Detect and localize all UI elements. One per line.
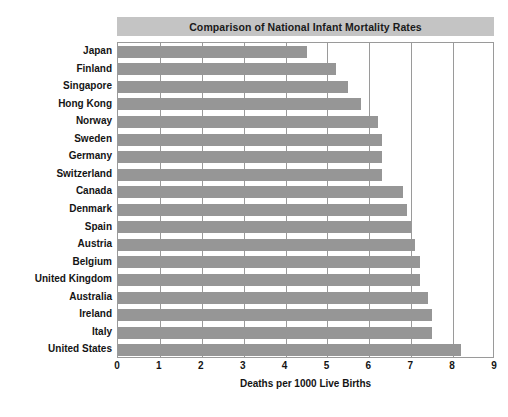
category-label-germany: Germany	[0, 147, 112, 165]
x-tick-label: 4	[273, 360, 297, 371]
chart-title-banner: Comparison of National Infant Mortality …	[117, 17, 494, 36]
bar-united-states[interactable]	[118, 344, 461, 356]
bar-row[interactable]	[118, 254, 493, 272]
category-label-switzerland: Switzerland	[0, 165, 112, 183]
category-label-sweden: Sweden	[0, 130, 112, 148]
x-tick-label: 3	[231, 360, 255, 371]
category-label-ireland: Ireland	[0, 305, 112, 323]
x-tick-label: 5	[314, 360, 338, 371]
category-label-denmark: Denmark	[0, 200, 112, 218]
bar-row[interactable]	[118, 289, 493, 307]
plot-area	[117, 42, 494, 358]
bar-united-kingdom[interactable]	[118, 274, 420, 286]
bar-row[interactable]	[118, 324, 493, 342]
category-label-spain: Spain	[0, 218, 112, 236]
category-label-italy: Italy	[0, 323, 112, 341]
bar-belgium[interactable]	[118, 256, 420, 268]
bar-norway[interactable]	[118, 116, 378, 128]
bar-switzerland[interactable]	[118, 169, 382, 181]
bar-row[interactable]	[118, 341, 493, 358]
bars-layer	[118, 43, 493, 357]
x-tick-label: 0	[105, 360, 129, 371]
bar-canada[interactable]	[118, 186, 403, 198]
category-label-belgium: Belgium	[0, 253, 112, 271]
category-label-japan: Japan	[0, 42, 112, 60]
bar-row[interactable]	[118, 113, 493, 131]
category-label-singapore: Singapore	[0, 77, 112, 95]
x-tick-label: 6	[356, 360, 380, 371]
category-label-hong-kong: Hong Kong	[0, 95, 112, 113]
category-label-norway: Norway	[0, 112, 112, 130]
bar-austria[interactable]	[118, 239, 415, 251]
category-label-australia: Australia	[0, 288, 112, 306]
bar-italy[interactable]	[118, 327, 432, 339]
bar-japan[interactable]	[118, 46, 307, 58]
bar-singapore[interactable]	[118, 81, 348, 93]
bar-row[interactable]	[118, 148, 493, 166]
x-tick-label: 1	[147, 360, 171, 371]
bar-row[interactable]	[118, 236, 493, 254]
category-label-finland: Finland	[0, 60, 112, 78]
bar-row[interactable]	[118, 43, 493, 61]
bar-row[interactable]	[118, 96, 493, 114]
bar-row[interactable]	[118, 271, 493, 289]
category-axis-labels: JapanFinlandSingaporeHong KongNorwaySwed…	[0, 42, 112, 358]
bar-ireland[interactable]	[118, 309, 432, 321]
bar-row[interactable]	[118, 131, 493, 149]
category-label-canada: Canada	[0, 182, 112, 200]
bar-row[interactable]	[118, 183, 493, 201]
bar-row[interactable]	[118, 219, 493, 237]
category-label-austria: Austria	[0, 235, 112, 253]
bar-finland[interactable]	[118, 63, 336, 75]
bar-hong-kong[interactable]	[118, 98, 361, 110]
x-tick-label: 2	[189, 360, 213, 371]
page-title: Comparison of National Infant Mortality …	[189, 21, 422, 33]
bar-row[interactable]	[118, 78, 493, 96]
bar-australia[interactable]	[118, 292, 428, 304]
x-tick-label: 8	[440, 360, 464, 371]
bar-sweden[interactable]	[118, 134, 382, 146]
infant-mortality-bar-chart: Comparison of National Infant Mortality …	[0, 0, 508, 417]
category-label-united-kingdom: United Kingdom	[0, 270, 112, 288]
x-tick-label: 7	[398, 360, 422, 371]
bar-row[interactable]	[118, 61, 493, 79]
bar-row[interactable]	[118, 306, 493, 324]
x-axis-tick-labels: 0123456789	[117, 360, 494, 376]
bar-spain[interactable]	[118, 221, 411, 233]
bar-denmark[interactable]	[118, 204, 407, 216]
x-axis-title: Deaths per 1000 Live Births	[117, 378, 494, 389]
bar-germany[interactable]	[118, 151, 382, 163]
x-tick-label: 9	[482, 360, 506, 371]
bar-row[interactable]	[118, 201, 493, 219]
bar-row[interactable]	[118, 166, 493, 184]
category-label-united-states: United States	[0, 340, 112, 358]
